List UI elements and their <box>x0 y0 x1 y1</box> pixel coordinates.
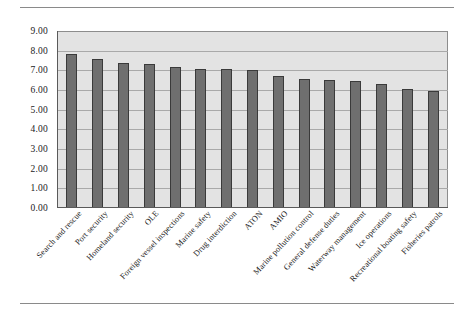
bar-slot <box>343 31 369 208</box>
bar-slot <box>394 31 420 208</box>
y-tick-label: 0.00 <box>31 203 48 213</box>
bar-slot <box>291 31 317 208</box>
y-tick-label: 6.00 <box>31 85 48 95</box>
bar[interactable] <box>66 54 77 208</box>
bar[interactable] <box>273 76 284 208</box>
bar-slot <box>214 31 240 208</box>
y-tick-label: 1.00 <box>31 183 48 193</box>
top-horizontal-rule <box>20 7 454 8</box>
bar[interactable] <box>428 91 439 208</box>
bar[interactable] <box>118 63 129 208</box>
y-axis-tick-labels: 9.008.007.006.005.004.003.002.001.000.00 <box>0 31 53 208</box>
bar[interactable] <box>221 69 232 208</box>
bar-slot <box>59 31 85 208</box>
bar[interactable] <box>376 84 387 208</box>
bar[interactable] <box>247 70 258 208</box>
y-tick-label: 7.00 <box>31 65 48 75</box>
bar[interactable] <box>402 89 413 208</box>
chart-figure: 9.008.007.006.005.004.003.002.001.000.00… <box>0 0 471 321</box>
y-axis-line <box>57 31 58 208</box>
y-tick-label: 8.00 <box>31 46 48 56</box>
x-tick-label: ATON <box>242 209 264 232</box>
x-axis-category-labels: Search and rescuePort securityHomeland s… <box>57 209 448 304</box>
bar-slot <box>317 31 343 208</box>
bar-slot <box>420 31 446 208</box>
x-tick-label: Search and rescue <box>35 209 84 260</box>
bar[interactable] <box>144 64 155 208</box>
x-tick-label: OLE <box>143 209 161 227</box>
bar-series <box>57 31 448 208</box>
x-axis-line <box>57 207 448 208</box>
y-tick-label: 2.00 <box>31 164 48 174</box>
plot-area <box>57 31 448 208</box>
bar[interactable] <box>195 69 206 208</box>
y-tick-label: 4.00 <box>31 124 48 134</box>
y-tick-label: 5.00 <box>31 105 48 115</box>
y-tick-label: 9.00 <box>31 26 48 36</box>
bar[interactable] <box>92 59 103 208</box>
bar-slot <box>111 31 137 208</box>
bar[interactable] <box>170 67 181 208</box>
bar[interactable] <box>299 79 310 208</box>
bar-slot <box>136 31 162 208</box>
bar[interactable] <box>350 81 361 208</box>
bar-slot <box>240 31 266 208</box>
bar-slot <box>85 31 111 208</box>
y-tick-label: 3.00 <box>31 144 48 154</box>
bar[interactable] <box>324 80 335 208</box>
x-tick-label: Homeland security <box>84 209 135 262</box>
bar-slot <box>162 31 188 208</box>
bar-slot <box>265 31 291 208</box>
bar-slot <box>188 31 214 208</box>
x-tick-label: AMIO <box>268 209 290 232</box>
bar-slot <box>369 31 395 208</box>
